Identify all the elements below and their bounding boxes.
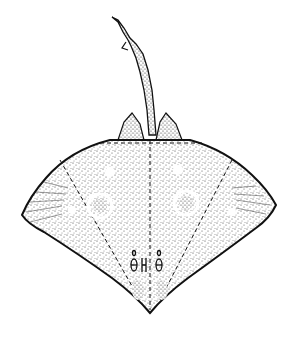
ray-drawing [0, 0, 293, 340]
illustration: skate / ray, dorsal view [0, 0, 293, 340]
body-disc [22, 140, 276, 313]
